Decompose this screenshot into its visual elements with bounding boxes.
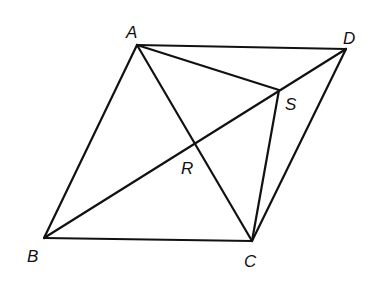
parallelogram-figure: ADSRBC xyxy=(0,0,383,281)
vertex-label-c: C xyxy=(244,252,257,271)
vertex-label-s: S xyxy=(285,95,297,114)
segment-ad xyxy=(137,45,346,49)
vertex-label-a: A xyxy=(125,23,137,42)
segment-bc xyxy=(44,238,252,241)
segment-sc xyxy=(252,90,279,241)
vertex-label-b: B xyxy=(27,247,38,266)
geometry-diagram: ADSRBC xyxy=(0,0,383,281)
segments-group xyxy=(44,45,346,241)
vertex-label-r: R xyxy=(181,159,193,178)
vertex-label-d: D xyxy=(343,29,355,48)
